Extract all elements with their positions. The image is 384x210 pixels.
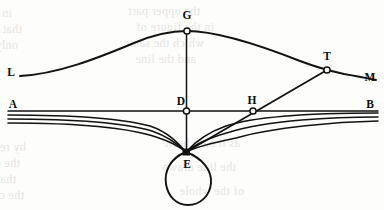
point-label-E: E [183, 158, 191, 170]
figure-container: in the middle ofthat motion wasonly thet… [0, 0, 384, 210]
cycloid-curve-right-1 [186, 113, 378, 152]
point-marker-G [184, 28, 190, 34]
cycloid-curve-left-3 [8, 123, 186, 152]
point-label-A: A [9, 98, 18, 110]
point-label-T: T [323, 50, 331, 62]
point-label-L: L [7, 66, 15, 78]
point-label-D: D [177, 95, 185, 107]
point-marker-T [324, 67, 330, 73]
point-label-B: B [366, 98, 374, 110]
point-label-H: H [248, 94, 257, 106]
point-marker-D [183, 108, 189, 114]
point-label-M: M [365, 71, 376, 83]
geometric-diagram: L G T M A D H B E [0, 0, 384, 210]
point-marker-E [183, 149, 190, 155]
point-label-G: G [183, 9, 192, 21]
point-marker-H [250, 108, 256, 114]
